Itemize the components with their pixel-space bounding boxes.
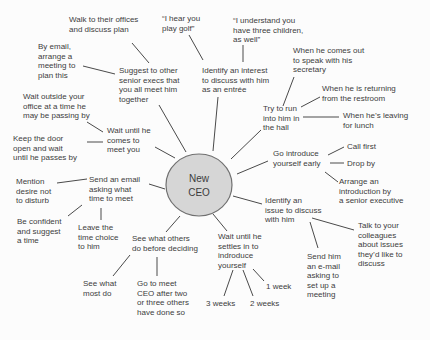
edge-ceo-identify-issue	[233, 196, 262, 204]
node-talk-colleagues: Talk to your colleagues about issues the…	[358, 221, 403, 269]
edge-ceo-wait-settles	[213, 214, 227, 231]
edge-ceo-try-run-hall	[231, 130, 261, 159]
node-go-meet-after: Go to meet CEO after two or three others…	[137, 279, 189, 317]
node-send-email-time: Send an email asking what time to meet	[89, 175, 140, 204]
node-understand-children: “I understand you have three children, a…	[233, 16, 303, 45]
node-suggest-execs: Suggest to other senior execs that you a…	[119, 66, 179, 104]
edge-suggest-by-email	[83, 66, 115, 74]
node-two-weeks: 2 weeks	[250, 299, 279, 309]
edge-suggest-walk-offices	[132, 43, 149, 63]
edge-issue-send-email-setup	[310, 222, 318, 248]
node-wait-comes: Wait until he comes to meet you	[107, 126, 151, 155]
node-by-email-arrange: By email, arrange a meeting to plan this	[38, 42, 75, 80]
edge-tryrun-restroom	[301, 97, 320, 107]
node-mention-desire: Mention desire not to disturb	[16, 177, 51, 206]
node-identify-interest: Identify an interest to discuss with him…	[202, 66, 269, 95]
node-identify-issue: Identify an issue to discuss with him	[265, 196, 321, 225]
node-when-restroom: When he is returning from the restroom	[322, 84, 396, 103]
node-see-others: See what others do before deciding	[132, 234, 198, 253]
new-ceo-label: New CEO	[172, 172, 226, 199]
node-try-run-hall: Try to run into him in the hall	[263, 104, 299, 133]
edge-seeothers-see-most	[113, 255, 130, 276]
edge-tryrun-secretary	[283, 77, 294, 106]
node-leave-time: Leave the time choice to him	[78, 223, 118, 252]
node-when-lunch: When he’s leaving for lunch	[343, 111, 408, 130]
edge-gointroduce-call-first	[328, 147, 344, 155]
edge-ceo-send-email-time	[149, 184, 165, 189]
node-when-secretary: When he comes out to speak with his secr…	[293, 46, 364, 75]
node-call-first: Call first	[347, 142, 376, 152]
node-one-week: 1 week	[266, 282, 291, 292]
edge-settles-one-week	[253, 269, 264, 281]
edge-ceo-wait-comes	[155, 147, 175, 158]
node-wait-settles: Wait until he settles in to indroduce yo…	[218, 232, 262, 270]
node-be-confident: Be confident and suggest a time	[17, 217, 61, 246]
node-see-most: See what most do	[83, 279, 116, 298]
edge-settles-two-weeks	[243, 270, 253, 296]
node-wait-outside: Wait outside your office at a time he ma…	[23, 92, 90, 121]
node-arrange-intro: Arrange an introduction by a senior exec…	[339, 177, 403, 206]
edge-ceo-identify-interest	[213, 97, 218, 151]
node-keep-door: Keep the door open and wait until he pas…	[13, 134, 77, 163]
edge-gointroduce-arrange	[325, 172, 338, 182]
edge-settles-three-weeks	[224, 270, 233, 296]
edge-waitcomes-wait-outside	[87, 122, 103, 132]
edge-interest-golf	[189, 35, 203, 60]
edge-ceo-see-others	[166, 216, 180, 232]
node-three-weeks: 3 weeks	[206, 299, 235, 309]
node-send-email-setup: Send him an e-mail asking to set up a me…	[307, 252, 341, 300]
node-drop-by: Drop by	[347, 159, 375, 169]
node-go-introduce: Go introduce yourself early	[273, 149, 321, 168]
edge-ceo-suggest-execs	[159, 105, 186, 152]
edge-emailtime-mention	[57, 179, 87, 183]
node-hear-golf: “I hear you play golf”	[162, 14, 200, 33]
node-walk-offices: Walk to their offices and discuss plan	[69, 15, 138, 34]
mind-map-diagram: New CEO Walk to their offices and discus…	[0, 0, 430, 340]
edge-ceo-go-introduce	[237, 161, 268, 174]
edge-emailtime-be-confident	[68, 205, 82, 216]
